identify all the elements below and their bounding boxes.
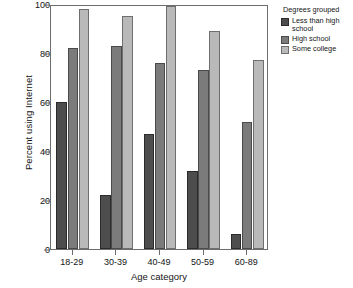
bar xyxy=(111,46,122,249)
legend-item[interactable]: Some college xyxy=(281,45,353,54)
x-tick-mark xyxy=(203,250,204,255)
chart-figure: Percent using Internet 020406080100 18-2… xyxy=(0,0,353,288)
x-axis-label: Age category xyxy=(50,271,268,282)
bar xyxy=(155,63,166,249)
x-tick-label: 50-59 xyxy=(191,257,214,267)
x-tick-label: 40-49 xyxy=(147,257,170,267)
bar xyxy=(253,60,264,249)
x-tick-mark xyxy=(72,250,73,255)
legend-item[interactable]: High school xyxy=(281,35,353,44)
legend-swatch-icon xyxy=(281,46,289,54)
legend: Degrees grouped Less than high schoolHig… xyxy=(281,6,353,55)
x-tick-mark xyxy=(115,250,116,255)
bar xyxy=(166,6,177,249)
x-tick-label: 30-39 xyxy=(104,257,127,267)
bar xyxy=(187,171,198,249)
bar xyxy=(100,195,111,249)
x-tick-label: 60-89 xyxy=(235,257,258,267)
legend-swatch-icon xyxy=(281,36,289,44)
x-tick-mark xyxy=(246,250,247,255)
bar xyxy=(68,48,79,249)
bar xyxy=(56,102,67,249)
bar xyxy=(198,70,209,249)
bars-container xyxy=(51,6,267,249)
x-tick-mark xyxy=(159,250,160,255)
bar xyxy=(242,122,253,249)
bar xyxy=(79,9,90,249)
legend-items: Less than high schoolHigh schoolSome col… xyxy=(281,17,353,54)
legend-title: Degrees grouped xyxy=(283,6,353,15)
legend-item[interactable]: Less than high school xyxy=(281,17,353,34)
legend-item-label: High school xyxy=(292,35,353,44)
plot-area xyxy=(50,5,268,250)
legend-item-label: Less than high school xyxy=(292,17,353,34)
bar xyxy=(231,234,242,249)
legend-item-label: Some college xyxy=(292,45,353,54)
y-axis-label: Percent using Internet xyxy=(23,43,34,203)
x-tick-label: 18-29 xyxy=(60,257,83,267)
bar xyxy=(144,134,155,249)
bar xyxy=(122,16,133,249)
legend-swatch-icon xyxy=(281,18,289,26)
bar xyxy=(209,31,220,249)
